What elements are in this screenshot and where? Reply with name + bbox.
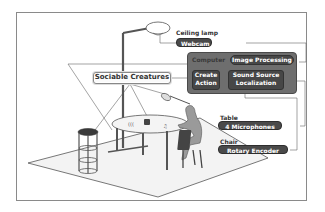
- computer-block: Computer Image Processing Create Action …: [187, 52, 297, 94]
- stool: [78, 129, 98, 136]
- sociable-creatures-label: Sociable Creatures: [93, 72, 171, 84]
- computer-label: Computer: [192, 56, 225, 63]
- image-processing-box: Image Processing: [230, 55, 294, 65]
- create-action-label-line1: Create: [193, 71, 219, 79]
- ceiling-lamp-icon: [146, 22, 170, 34]
- sound-source-localization-box: Sound Source Localization: [228, 70, 284, 90]
- sound-source-label-line1: Sound Source: [229, 71, 283, 79]
- webcam-badge: Webcam: [176, 38, 212, 47]
- image-processing-label: Image Processing: [232, 56, 292, 63]
- chair-label: Chair: [220, 138, 238, 145]
- create-action-box: Create Action: [192, 70, 220, 90]
- chair: [177, 130, 191, 150]
- microphones-badge: 4 Microphones: [218, 121, 282, 130]
- ceiling-lamp-label: Ceiling lamp: [176, 29, 218, 36]
- svg-text:♫: ♫: [163, 123, 167, 129]
- create-action-label-line2: Action: [193, 79, 219, 87]
- svg-text:(((: (((: [128, 121, 134, 127]
- sound-source-label-line2: Localization: [229, 79, 283, 87]
- table-label: Table: [220, 114, 238, 121]
- rotary-encoder-badge: Rotary Encoder: [218, 145, 288, 154]
- room-illustration: ((( ♫: [0, 0, 325, 212]
